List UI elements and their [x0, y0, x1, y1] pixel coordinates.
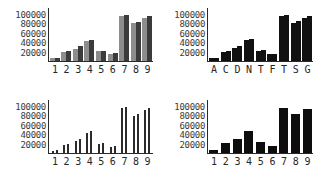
- y-tick-label: 60000: [179, 29, 205, 38]
- x-tick-label: S: [290, 64, 302, 76]
- bar-group: [49, 102, 61, 153]
- x-tick-label: 9: [142, 64, 154, 76]
- x-tick-label: 9: [301, 156, 313, 168]
- bar-group: [243, 102, 255, 153]
- bar: [296, 21, 301, 61]
- y-tick-label: 40000: [20, 39, 46, 48]
- chart-panel-top-right: 20000400006000080000100000 ACDNTFTSG: [159, 0, 319, 92]
- bar: [52, 151, 54, 153]
- bar: [67, 144, 69, 153]
- x-tick-label: 8: [290, 156, 302, 168]
- y-tick-label: 20000: [20, 140, 46, 149]
- bar-group: [84, 102, 96, 153]
- bar: [56, 150, 58, 153]
- y-tick-label: 60000: [20, 121, 46, 130]
- x-tick-label: 2: [220, 156, 232, 168]
- x-axis-line: [207, 61, 313, 62]
- plot-area-bottom-right: [207, 102, 313, 154]
- bar: [261, 50, 266, 61]
- x-axis-line: [48, 61, 153, 62]
- bar-group: [266, 102, 278, 153]
- x-tick-label: 1: [49, 64, 61, 76]
- bar-group: [208, 102, 220, 153]
- bar: [233, 139, 242, 153]
- x-tick-label: 1: [208, 156, 220, 168]
- bar: [256, 142, 265, 153]
- y-tick-label: 40000: [20, 131, 46, 140]
- y-tick-label: 100000: [15, 102, 46, 111]
- bar: [78, 46, 83, 61]
- y-tick-label: 100000: [174, 102, 205, 111]
- y-tick-label: 20000: [20, 48, 46, 57]
- bar: [209, 150, 218, 153]
- x-tick-label: 9: [142, 156, 154, 168]
- bar-group: [290, 102, 302, 153]
- bar: [86, 133, 88, 153]
- y-tick-label: 20000: [179, 140, 205, 149]
- y-tick-label: 80000: [20, 112, 46, 121]
- bar-group: [301, 10, 313, 61]
- bar-group: [72, 102, 84, 153]
- bar: [244, 131, 253, 153]
- x-tick-label: 8: [130, 64, 142, 76]
- x-tick-label: 3: [72, 64, 84, 76]
- bar-group: [49, 10, 61, 61]
- x-axis-line: [48, 153, 153, 154]
- y-tick-label: 80000: [179, 112, 205, 121]
- x-tick-label: F: [266, 64, 278, 76]
- bar: [121, 108, 123, 153]
- bar: [291, 114, 300, 153]
- bar-group: [231, 10, 243, 61]
- x-tick-label: 8: [130, 156, 142, 168]
- y-tick-label: 100000: [174, 10, 205, 19]
- y-tick-label: 60000: [179, 121, 205, 130]
- bar: [148, 108, 150, 153]
- bar: [268, 146, 277, 153]
- x-tick-label: 3: [231, 156, 243, 168]
- bar-group: [301, 102, 313, 153]
- bars-bottom-left: [49, 102, 153, 153]
- y-tick-label: 40000: [179, 39, 205, 48]
- x-tick-label: 5: [255, 156, 267, 168]
- y-axis-labels-bottom-right: 20000400006000080000100000: [161, 102, 206, 154]
- y-axis-labels-top-right: 20000400006000080000100000: [161, 10, 206, 62]
- bar: [237, 46, 242, 61]
- x-tick-label: 2: [61, 156, 73, 168]
- x-tick-label: 4: [84, 64, 96, 76]
- x-tick-label: 1: [49, 156, 61, 168]
- bar-group: [290, 10, 302, 61]
- bar-group: [130, 10, 142, 61]
- x-tick-label: G: [301, 64, 313, 76]
- bar: [279, 108, 288, 153]
- bar-group: [118, 10, 130, 61]
- x-tick-label: 7: [278, 156, 290, 168]
- bars-bottom-right: [208, 102, 313, 153]
- bar: [144, 110, 146, 153]
- x-axis-labels-top-right: ACDNTFTSG: [208, 64, 313, 78]
- x-tick-label: T: [278, 64, 290, 76]
- bar-group: [118, 102, 130, 153]
- bar: [79, 139, 81, 153]
- bar-group: [72, 10, 84, 61]
- bar: [137, 114, 139, 153]
- bar-group: [231, 102, 243, 153]
- y-tick-label: 20000: [179, 48, 205, 57]
- x-tick-label: 3: [72, 156, 84, 168]
- bar: [249, 39, 254, 61]
- x-tick-label: 4: [243, 156, 255, 168]
- chart-grid: 20000400006000080000100000 123456789 200…: [0, 0, 319, 184]
- y-axis-labels-top-left: 20000400006000080000100000: [2, 10, 47, 62]
- bar: [114, 146, 116, 153]
- bar-group: [208, 10, 220, 61]
- bar: [221, 143, 230, 153]
- x-axis-labels-bottom-right: 123456789: [208, 156, 313, 170]
- bar: [101, 51, 106, 61]
- bar-group: [95, 10, 107, 61]
- bar: [89, 40, 94, 61]
- x-axis-line: [207, 153, 313, 154]
- y-tick-label: 80000: [20, 20, 46, 29]
- bar: [226, 51, 231, 61]
- bar-group: [95, 102, 107, 153]
- x-tick-label: T: [255, 64, 267, 76]
- bar: [55, 58, 60, 61]
